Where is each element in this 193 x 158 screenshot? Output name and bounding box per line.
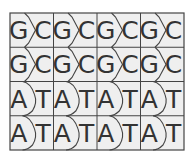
- base-letter-left: G: [53, 16, 72, 45]
- base-letter-right: C: [34, 50, 51, 79]
- base-letter-left: A: [141, 85, 158, 114]
- base-letter-right: C: [78, 50, 95, 79]
- base-letter-right: T: [165, 119, 182, 148]
- base-letter-left: A: [54, 85, 71, 114]
- base-letter-right: C: [165, 50, 182, 79]
- base-letter-right: T: [78, 85, 95, 114]
- base-letter-left: G: [9, 50, 28, 79]
- base-letter-left: G: [9, 16, 28, 45]
- base-letter-right: C: [78, 16, 95, 45]
- base-letter-right: C: [121, 50, 138, 79]
- base-pair-row: GCGCGCGC: [9, 47, 182, 81]
- base-letter-left: G: [53, 50, 72, 79]
- base-letter-left: G: [140, 50, 159, 79]
- base-pair-row: GCGCGCGC: [9, 13, 182, 47]
- base-letter-left: A: [141, 119, 158, 148]
- base-letter-right: T: [121, 119, 138, 148]
- base-letter-left: G: [96, 50, 115, 79]
- base-pair-diagram: GCGCGCGCGCGCGCGCATATATATATATATAT: [0, 0, 193, 158]
- base-letter-left: A: [54, 119, 71, 148]
- base-letter-right: C: [34, 16, 51, 45]
- base-letter-right: T: [78, 119, 95, 148]
- base-letter-left: A: [10, 85, 27, 114]
- base-letter-left: G: [140, 16, 159, 45]
- base-letter-right: C: [121, 16, 138, 45]
- base-letter-left: G: [96, 16, 115, 45]
- base-letter-left: A: [10, 119, 27, 148]
- base-letter-right: T: [165, 85, 182, 114]
- base-letter-right: T: [34, 119, 51, 148]
- base-letter-right: C: [165, 16, 182, 45]
- base-letter-left: A: [97, 119, 114, 148]
- base-letter-right: T: [121, 85, 138, 114]
- base-letter-right: T: [34, 85, 51, 114]
- base-letter-left: A: [97, 85, 114, 114]
